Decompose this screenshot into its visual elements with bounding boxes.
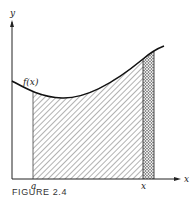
area-under-curve-region [33, 59, 143, 179]
x-axis-arrow-icon [174, 177, 181, 181]
figure-caption: FIGURE 2.4 [12, 187, 67, 197]
incremental-strip-region [143, 51, 154, 179]
x-axis-label: x [184, 174, 189, 184]
function-label: f(x) [22, 77, 39, 87]
y-axis-label: y [9, 8, 16, 18]
upper-bound-label: x [141, 181, 146, 191]
y-axis [10, 20, 14, 179]
figure-2-4-diagram: y x f(x) a x [0, 0, 190, 202]
y-axis-arrow-icon [10, 20, 14, 27]
